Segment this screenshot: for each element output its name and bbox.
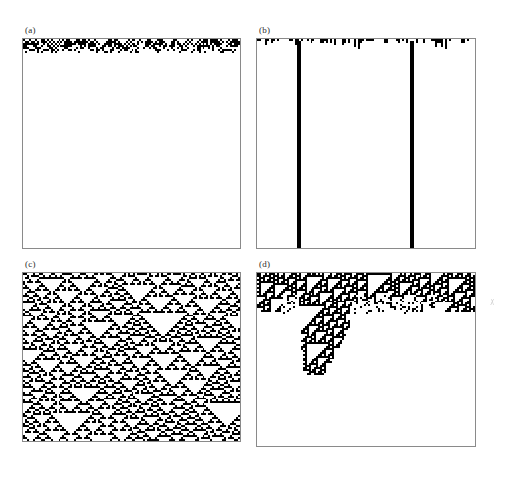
panel-a-spacetime-diagram bbox=[23, 39, 240, 248]
panel-d-spacetime-diagram bbox=[257, 273, 475, 446]
panel-c-label: (c) bbox=[25, 259, 36, 269]
panel-c-frame bbox=[22, 272, 241, 442]
panel-b-spacetime-diagram bbox=[257, 39, 475, 248]
panel-a-label: (a) bbox=[25, 25, 36, 35]
panel-d-label: (d) bbox=[259, 259, 270, 269]
panel-c-spacetime-diagram bbox=[23, 273, 240, 441]
panel-b-label: (b) bbox=[259, 25, 270, 35]
panel-b-frame bbox=[256, 38, 476, 249]
panel-d-frame bbox=[256, 272, 476, 447]
scan-speck-artifact bbox=[489, 299, 496, 305]
figure-root: (a) (b) (c) (d) bbox=[0, 0, 507, 503]
panel-a-frame bbox=[22, 38, 241, 249]
